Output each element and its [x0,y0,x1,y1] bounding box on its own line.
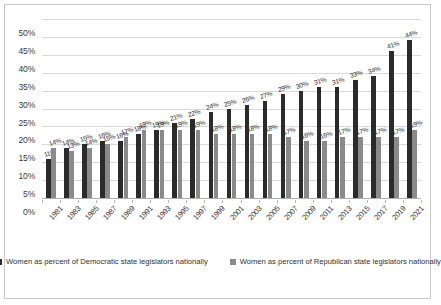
x-axis-tick-label: 2013 [336,204,354,222]
x-axis-tickmark [403,200,404,203]
data-label: 44% [404,29,418,39]
x-axis-tickmark [150,200,151,203]
bar-democratic [299,91,304,198]
bar-group: 16%15% [96,19,114,198]
bar-republican [69,151,74,198]
bar-group: 22%19% [186,19,204,198]
bar-republican [124,137,129,198]
bar-group: 41%17% [385,19,403,198]
bar-group: 18%19% [132,19,150,198]
legend-swatch-icon [230,259,236,265]
bar-democratic [100,141,105,198]
bar-republican [87,148,92,198]
bar-group: 16%17% [114,19,132,198]
x-axis-tick-label: 1989 [119,204,137,222]
x-axis-tickmark [277,200,278,203]
x-axis: 1981198319851987198919911993199519971999… [42,200,421,246]
y-axis-tick-label: 0% [23,207,35,217]
y-axis-tick-label: 15% [19,153,35,163]
data-label: 25% [223,97,237,107]
x-axis-tickmark [313,200,314,203]
x-axis-tick-label: 2001 [228,204,246,222]
bar-democratic [154,130,159,198]
bar-democratic [335,87,340,198]
bar-republican [51,148,56,198]
bar-republican [105,144,110,198]
x-axis-tickmark [96,200,97,203]
x-axis-tick-label: 2003 [246,204,264,222]
y-axis-tick-label: 25% [19,118,35,128]
bar-republican [232,134,237,198]
x-axis-tickmark [241,200,242,203]
bar-group: 26%18% [241,19,259,198]
bar-democratic [64,148,69,198]
bar-democratic [317,87,322,198]
bar-democratic [407,40,412,198]
x-axis-tickmark [186,200,187,203]
chart-legend: Women as percent of Democratic state leg… [5,257,432,266]
bar-democratic [353,80,358,198]
bar-group: 21%19% [168,19,186,198]
bar-group: 14%13% [60,19,78,198]
bar-democratic [172,123,177,198]
x-axis-tick-label: 2005 [264,204,282,222]
x-axis-tickmark [349,200,350,203]
bar-group: 11%14% [42,19,60,198]
bar-democratic [227,109,232,199]
bar-democratic [281,94,286,198]
x-axis-tick-label: 1997 [192,204,210,222]
y-axis-tick-label: 35% [19,82,35,92]
bar-group: 33%17% [349,19,367,198]
x-axis-tick-label: 1985 [83,204,101,222]
x-axis-tickmark [60,200,61,203]
bar-democratic [46,159,51,198]
y-axis-tick-label: 5% [23,189,35,199]
bar-republican [250,134,255,198]
legend-item-democratic: Women as percent of Democratic state leg… [0,257,208,266]
bar-democratic [389,51,394,198]
bar-group: 27%18% [259,19,277,198]
bar-republican [142,130,147,198]
chart-container: 0%5%10%15%20%25%30%35%40%45%50% 11%14%14… [4,4,431,299]
x-axis-tick-label: 1981 [47,204,65,222]
bar-group: 31%17% [331,19,349,198]
bar-republican [160,130,165,198]
bar-democratic [371,76,376,198]
data-label: 41% [385,40,399,50]
bar-democratic [190,119,195,198]
gridline [42,198,421,199]
x-axis-tick-label: 2021 [408,204,426,222]
data-label: 31% [313,76,327,86]
bar-republican [394,137,399,198]
x-axis-tickmark [168,200,169,203]
y-axis-tick-label: 50% [19,28,35,38]
x-axis-tick-label: 1987 [101,204,119,222]
bar-democratic [82,144,87,198]
legend-item-republican: Women as percent of Republican state leg… [230,257,441,266]
bar-republican [178,130,183,198]
x-axis-tick-label: 1993 [155,204,173,222]
x-axis-tick-label: 1999 [210,204,228,222]
bar-republican [376,137,381,198]
x-axis-tick-label: 2009 [300,204,318,222]
data-label: 26% [241,94,255,104]
x-axis-tick-label: 1983 [65,204,83,222]
y-axis-tick-label: 10% [19,171,35,181]
x-axis-tick-label: 2017 [372,204,390,222]
x-axis-tick-label: 2019 [390,204,408,222]
x-axis-tick-label: 2015 [354,204,372,222]
bar-republican [412,130,417,198]
x-axis-tickmark [331,200,332,203]
x-axis-tickmark [367,200,368,203]
y-axis-tick-label: 20% [19,135,35,145]
y-axis-tick-label: 30% [19,100,35,110]
x-axis-tick-label: 2007 [282,204,300,222]
data-label: 22% [187,108,201,118]
bar-group: 15%14% [78,19,96,198]
x-axis-tickmark [385,200,386,203]
bar-democratic [263,101,268,198]
bar-republican [196,130,201,198]
bar-republican [304,141,309,198]
bar-republican [214,134,219,198]
bar-group: 34%17% [367,19,385,198]
